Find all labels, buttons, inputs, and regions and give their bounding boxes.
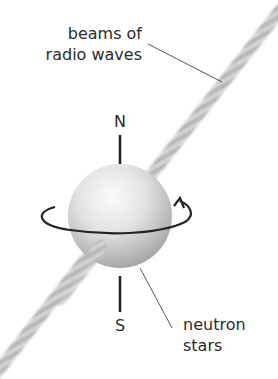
south-label: S	[115, 316, 125, 335]
rotation-arrow-icon	[174, 198, 184, 208]
neutron-label-line1: neutron	[183, 315, 246, 334]
beams-label-line1: beams of	[68, 24, 143, 43]
neutron-label-line2: stars	[183, 336, 222, 355]
radio-beam-front	[60, 245, 102, 300]
north-label: N	[114, 112, 126, 131]
neutron-star-sphere	[68, 164, 172, 268]
neutron-leader-line	[140, 268, 172, 328]
beams-leader-line	[148, 44, 222, 82]
pulsar-diagram: beams of radio waves N S neutron stars	[0, 0, 278, 379]
beams-label-line2: radio waves	[46, 45, 142, 64]
